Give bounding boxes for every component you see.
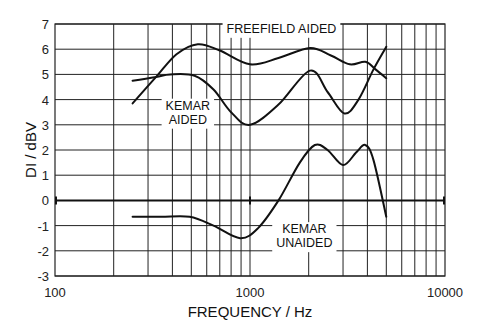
y-tick-label: -2: [37, 244, 49, 259]
y-tick-label: 4: [42, 93, 49, 108]
annotation-text: AIDED: [169, 113, 207, 127]
annotation-text: KEMAR: [166, 99, 210, 113]
annotation-kemar-unaided: KEMARUNAIDED: [272, 222, 336, 252]
annotation-text: UNAIDED: [276, 236, 332, 250]
x-tick-label: 100: [44, 285, 66, 300]
curves: [133, 44, 387, 238]
annotation-text: FREEFIELD AIDED: [227, 22, 337, 36]
y-axis-label: DI / dBV: [22, 122, 39, 178]
annotation-text: KEMAR: [282, 222, 326, 236]
grid: [55, 24, 445, 276]
y-tick-label: 5: [42, 67, 49, 82]
curve-kemar-unaided: [133, 144, 387, 238]
y-tick-label: 7: [42, 17, 49, 32]
y-tick-labels: -3-2-101234567: [37, 17, 49, 284]
x-axis-label: FREQUENCY / Hz: [188, 303, 313, 320]
y-tick-label: 0: [42, 193, 49, 208]
x-tick-labels: 100100010000: [44, 285, 463, 300]
y-tick-label: -1: [37, 219, 49, 234]
di-frequency-chart: FREEFIELD AIDEDKEMARAIDEDKEMARUNAIDED -3…: [0, 0, 483, 335]
y-tick-label: 6: [42, 42, 49, 57]
y-tick-label: 1: [42, 168, 49, 183]
y-tick-label: 2: [42, 143, 49, 158]
y-tick-label: 3: [42, 118, 49, 133]
annotation-freefield-aided: FREEFIELD AIDED: [223, 22, 341, 38]
y-tick-label: -3: [37, 269, 49, 284]
annotation-kemar-aided: KEMARAIDED: [162, 99, 214, 129]
x-tick-label: 1000: [236, 285, 265, 300]
x-tick-label: 10000: [427, 285, 463, 300]
